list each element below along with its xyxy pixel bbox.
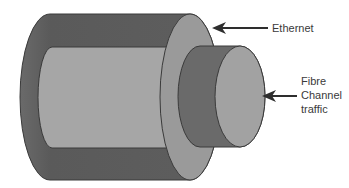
fcoe-diagram: Ethernet Fibre Channel traffic [0,0,349,188]
fibre-channel-arrow [262,90,297,102]
fibre-channel-label-line2: Channel [301,89,342,101]
fc-cylinder-face [215,46,265,147]
fibre-channel-label-line1: Fibre [301,75,326,87]
ethernet-label: Ethernet [272,22,314,34]
ethernet-arrow [212,22,268,34]
fibre-channel-label-line3: traffic [301,103,328,115]
